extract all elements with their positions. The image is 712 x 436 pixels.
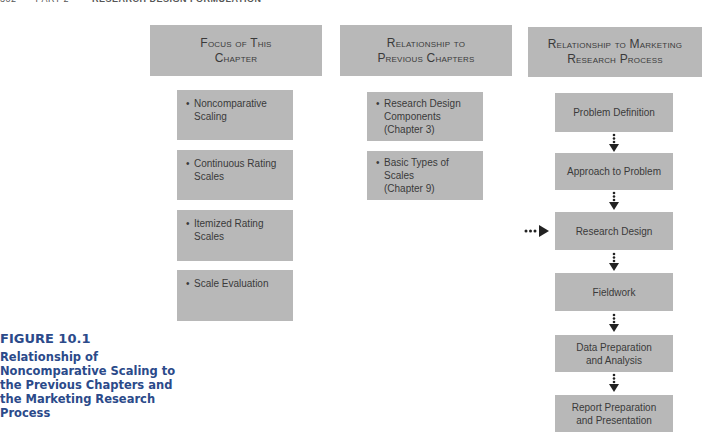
item-line: Continuous Rating bbox=[194, 157, 285, 170]
item-line: Scales bbox=[194, 230, 285, 243]
bullet-icon: • bbox=[186, 97, 194, 110]
item-line: Components bbox=[384, 110, 475, 123]
step-line: Fieldwork bbox=[593, 286, 636, 299]
header-line: Research Process bbox=[548, 52, 683, 67]
figure-label: FIGURE 10.1 bbox=[0, 330, 180, 347]
previous-item-basic-types-of-scales: •Basic Types ofScales(Chapter 9) bbox=[367, 151, 483, 200]
part-title: RESEARCH DESIGN FORMULATION bbox=[92, 0, 261, 4]
step-fieldwork: Fieldwork bbox=[555, 273, 673, 311]
item-line: Research Design bbox=[384, 97, 475, 110]
step-problem-definition: Problem Definition bbox=[555, 93, 673, 132]
dotted-down-arrow-icon bbox=[608, 252, 620, 272]
header-relationship-previous-chapters: Relationship to Previous Chapters bbox=[340, 25, 512, 76]
item-line: (Chapter 9) bbox=[384, 182, 475, 195]
step-line: Research Design bbox=[576, 225, 653, 238]
header-focus-of-chapter: Focus of This Chapter bbox=[150, 25, 322, 76]
step-approach-to-problem: Approach to Problem bbox=[555, 153, 673, 190]
header-relationship-marketing-process: Relationship to Marketing Research Proce… bbox=[528, 27, 702, 77]
item-line: Scale Evaluation bbox=[194, 277, 285, 290]
bullet-icon: • bbox=[186, 217, 194, 230]
item-line: Scaling bbox=[194, 110, 285, 123]
step-line: and Presentation bbox=[572, 414, 657, 427]
dotted-down-arrow-icon bbox=[608, 191, 620, 211]
figure-caption: FIGURE 10.1 Relationship of Noncomparati… bbox=[0, 330, 180, 420]
bullet-icon: • bbox=[376, 156, 384, 169]
header-line: Chapter bbox=[200, 51, 271, 66]
header-line: Focus of This bbox=[200, 36, 271, 51]
dotted-right-arrow-icon bbox=[524, 224, 554, 238]
header-line: Relationship to bbox=[377, 36, 474, 51]
step-data-preparation-analysis: Data Preparation and Analysis bbox=[555, 335, 673, 372]
figure-title: Relationship of Noncomparative Scaling t… bbox=[0, 350, 180, 420]
step-line: and Analysis bbox=[576, 354, 652, 367]
bullet-icon: • bbox=[186, 277, 194, 290]
item-line: Basic Types of bbox=[384, 156, 475, 169]
step-line: Problem Definition bbox=[573, 106, 655, 119]
item-line: Scales bbox=[194, 170, 285, 183]
step-line: Data Preparation bbox=[576, 341, 652, 354]
previous-item-research-design-components: •Research DesignComponents(Chapter 3) bbox=[367, 92, 483, 141]
step-research-design: Research Design bbox=[555, 212, 673, 250]
page-number: 302 bbox=[0, 0, 17, 4]
running-head: 302 PART 2 RESEARCH DESIGN FORMULATION bbox=[0, 0, 420, 6]
dotted-down-arrow-icon bbox=[608, 133, 620, 153]
part-label: PART 2 bbox=[36, 0, 70, 4]
item-line: Itemized Rating bbox=[194, 217, 285, 230]
item-line: (Chapter 3) bbox=[384, 123, 475, 136]
focus-item-continuous-rating-scales: •Continuous RatingScales bbox=[177, 150, 293, 200]
step-line: Approach to Problem bbox=[567, 165, 661, 178]
bullet-icon: • bbox=[376, 97, 384, 110]
step-line: Report Preparation bbox=[572, 401, 657, 414]
bullet-icon: • bbox=[186, 157, 194, 170]
step-report-preparation-presentation: Report Preparation and Presentation bbox=[555, 395, 673, 432]
header-line: Previous Chapters bbox=[377, 51, 474, 66]
focus-item-itemized-rating-scales: •Itemized RatingScales bbox=[177, 210, 293, 261]
focus-item-scale-evaluation: •Scale Evaluation bbox=[177, 270, 293, 321]
dotted-down-arrow-icon bbox=[608, 313, 620, 333]
header-line: Relationship to Marketing bbox=[548, 37, 683, 52]
dotted-down-arrow-icon bbox=[608, 373, 620, 393]
item-line: Noncomparative bbox=[194, 97, 285, 110]
item-line: Scales bbox=[384, 169, 475, 182]
focus-item-noncomparative-scaling: •NoncomparativeScaling bbox=[177, 90, 293, 140]
